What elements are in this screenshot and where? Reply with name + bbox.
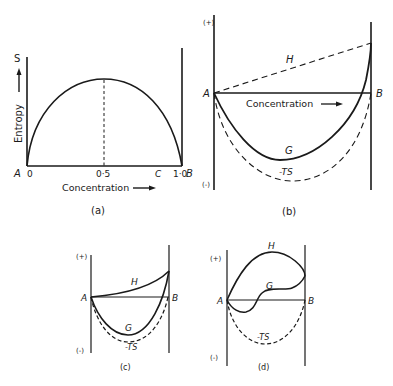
panel-a: S Entropy A 0 0·5 C 1·0 B Concentration …	[13, 48, 193, 216]
concentration-label: Concentration	[246, 98, 313, 109]
g-label: G	[266, 281, 273, 291]
g-label: G	[125, 323, 132, 333]
y-axis-label: Entropy	[13, 104, 24, 143]
minus-label: (-)	[76, 347, 84, 355]
plus-label: (+)	[203, 19, 215, 27]
ts-label: -TS	[125, 343, 137, 352]
ts-label: -TS	[257, 333, 269, 342]
panel-c: (+) (-) A B H G -TS (c)	[76, 245, 178, 372]
ts-label: -TS	[279, 167, 293, 177]
enthalpy-curve	[227, 252, 305, 300]
x-axis-label: Concentration	[62, 182, 129, 193]
caption-a: (a)	[91, 205, 105, 216]
plus-label: (+)	[76, 253, 88, 261]
h-label: H	[131, 277, 138, 287]
end-label-b: B	[376, 88, 383, 99]
g-label: G	[285, 145, 293, 156]
minus-label: (-)	[202, 181, 210, 189]
thermodynamics-figure: S Entropy A 0 0·5 C 1·0 B Concentration …	[0, 0, 393, 386]
minus-label: (-)	[210, 354, 218, 362]
panel-d: (+) (-) A B H G -TS (d)	[210, 241, 314, 372]
end-label-a: A	[202, 88, 210, 99]
end-label-b: B	[308, 296, 314, 306]
end-label-b: B	[186, 168, 193, 179]
up-arrowhead-icon	[17, 68, 22, 75]
marker-c: C	[155, 169, 162, 179]
right-arrowhead-icon	[336, 102, 343, 107]
end-label-a: A	[216, 296, 223, 306]
enthalpy-curve	[214, 43, 371, 93]
enthalpy-curve	[91, 271, 169, 297]
end-label-a: A	[80, 293, 87, 303]
tick-0-5: 0·5	[96, 169, 110, 179]
caption-c: (c)	[120, 363, 131, 372]
caption-b: (b)	[282, 206, 296, 217]
plus-label: (+)	[210, 255, 222, 263]
panel-b: (+) (-) A B H G -TS Concentration (b)	[202, 15, 383, 217]
end-label-a: A	[13, 168, 21, 179]
h-label: H	[268, 241, 275, 251]
h-label: H	[286, 54, 294, 65]
caption-d: (d)	[258, 363, 269, 372]
y-axis-symbol: S	[14, 53, 20, 64]
end-label-b: B	[172, 293, 178, 303]
right-arrowhead-icon	[149, 186, 156, 191]
tick-0: 0	[27, 169, 33, 179]
